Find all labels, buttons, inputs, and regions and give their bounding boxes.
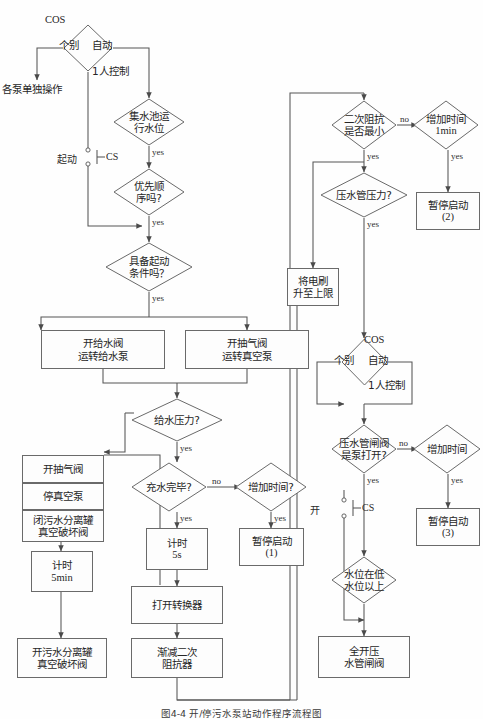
- node-timer-5min-line2: 5min: [51, 572, 73, 584]
- node-feed-pressure: 给水压力?: [131, 398, 223, 442]
- edge-label-pressgate-no: no: [399, 438, 408, 448]
- edge-label-priority-yes: yes: [152, 217, 164, 227]
- node-open-airvalve-2-line1: 开抽气阀: [43, 463, 83, 475]
- node-pause-start-2-line1: 暂停启动: [428, 199, 468, 211]
- cos-top-right-option: 自动: [92, 40, 112, 52]
- node-open-sewage-separator: 开污水分离罐 真空破坏阀: [17, 638, 107, 678]
- node-add-time-1min: 增加时间 1min: [413, 100, 479, 150]
- open-switch-label: 开: [310, 502, 320, 517]
- cos-lower-right-option: 自动: [368, 355, 388, 367]
- node-each-pump-manual: 各泵单独操作: [2, 84, 62, 96]
- cos-top-down-option: 1人控制: [92, 66, 129, 78]
- node-open-airvalve-line1: 开抽气阀: [227, 337, 267, 349]
- edge-label-addtime1-yes: yes: [274, 513, 286, 523]
- node-timer-5min-line1: 计时: [52, 559, 72, 571]
- node-reduce-secondary-line2: 阻抗器: [162, 658, 192, 670]
- figure-caption: 图4-4 开/停污水泵站动作程序流程图: [0, 706, 483, 719]
- node-open-converter-line1: 打开转换器: [152, 599, 202, 611]
- cos-top-marker: COS: [45, 14, 65, 26]
- node-timer-5s: 计时 5s: [146, 528, 208, 570]
- node-add-time-2: 增加时间: [413, 424, 481, 474]
- cos-lower-marker: COS: [364, 334, 384, 346]
- node-open-airvalve-line2: 运转真空泵: [222, 350, 272, 362]
- node-press-gate-open: 压水管闸阀 是泵打开?: [331, 424, 397, 474]
- node-close-sewage-separator-line2: 真空破坏阀: [38, 526, 88, 538]
- node-open-sewage-separator-line2: 真空破坏阀: [37, 658, 87, 670]
- node-raise-brush-line1: 将电刷: [298, 275, 328, 287]
- node-secondary-min: 二次阻抗 是否最小: [331, 100, 397, 150]
- node-timer-5s-line1: 计时: [167, 537, 187, 549]
- node-start-conditions: 具备起动 条件吗？: [105, 242, 193, 292]
- node-pause-start-2-line2: (2): [442, 211, 454, 223]
- node-priority-order: 优先顺 序吗?: [113, 168, 185, 216]
- open-switch-device: CS: [362, 502, 374, 513]
- node-open-sewage-separator-line1: 开污水分离罐: [32, 646, 92, 658]
- node-pause-auto-3: 暂停自动 (3): [416, 508, 480, 546]
- node-open-feedwater: 开给水阀 运转给水泵: [41, 330, 165, 369]
- node-open-airvalve-2: 开抽气阀: [22, 455, 104, 483]
- cos-lower-down-option: 1人控制: [368, 380, 405, 392]
- edge-label-presspipe-yes: yes: [367, 219, 379, 229]
- node-close-sewage-separator-line1: 闭污水分离罐: [33, 514, 93, 526]
- node-add-time-1: 增加时间?: [235, 462, 307, 512]
- node-raise-brush: 将电刷 升至上限: [287, 268, 339, 306]
- node-pause-start-1-line1: 暂停启动: [252, 535, 292, 547]
- edge-label-secondary-yes: yes: [367, 151, 379, 161]
- edge-label-secondary-no: no: [400, 114, 409, 124]
- node-timer-5min: 计时 5min: [31, 551, 93, 592]
- node-open-feedwater-line1: 开给水阀: [83, 337, 123, 349]
- node-reduce-secondary: 渐减二次 阻抗器: [131, 638, 223, 678]
- cos-lower-left-option: 个别: [334, 355, 354, 367]
- node-pause-auto-3-line2: (3): [442, 527, 454, 539]
- node-timer-5s-line2: 5s: [172, 549, 181, 561]
- node-fully-open-gate-line1: 全开压: [349, 645, 379, 657]
- node-sump-level: 集水池运 行水位: [113, 98, 185, 146]
- edge-label-addtime1min-yes: yes: [451, 151, 463, 161]
- cos-top-left-option: 个别: [59, 40, 79, 52]
- node-fully-open-gate-line2: 水管闸阀: [344, 657, 384, 669]
- node-pause-start-2: 暂停启动 (2): [416, 192, 480, 230]
- node-open-converter: 打开转换器: [131, 586, 223, 624]
- node-stop-vacuum-line1: 停真空泵: [43, 490, 83, 502]
- node-raise-brush-line2: 升至上限: [293, 287, 333, 299]
- node-reduce-secondary-line1: 渐减二次: [157, 646, 197, 658]
- node-stop-vacuum: 停真空泵: [22, 483, 104, 510]
- node-pause-start-1-line2: (1): [265, 547, 277, 559]
- node-open-airvalve: 开抽气阀 运转真空泵: [185, 330, 309, 369]
- node-fully-open-gate: 全开压 水管闸阀: [318, 636, 410, 678]
- node-fill-complete: 充水完毕?: [131, 462, 207, 512]
- start-switch-device: CS: [106, 151, 118, 162]
- flowchart-figure: COS 个别 自动 1人控制 各泵单独操作 起动 CS 集水池运 行水位 yes…: [0, 0, 483, 719]
- edge-label-fill-yes: yes: [180, 513, 192, 523]
- node-pause-start-1: 暂停启动 (1): [239, 528, 304, 566]
- edge-label-pressgate-yes: yes: [367, 475, 379, 485]
- edge-label-feedpressure-yes: yes: [180, 443, 192, 453]
- node-level-above-low: 水位在低 水位以上: [331, 556, 397, 604]
- edge-label-fill-no: no: [212, 476, 221, 486]
- node-pause-auto-3-line1: 暂停自动: [428, 515, 468, 527]
- edge-label-sump-yes: yes: [152, 147, 164, 157]
- edge-label-addtime2-yes: yes: [451, 475, 463, 485]
- node-close-sewage-separator: 闭污水分离罐 真空破坏阀: [22, 510, 104, 542]
- start-switch-label: 起动: [57, 151, 77, 166]
- edge-label-startcond-yes: yes: [152, 293, 164, 303]
- node-press-pipe-pressure: 压水管压力?: [320, 172, 408, 218]
- node-open-feedwater-line2: 运转给水泵: [78, 350, 128, 362]
